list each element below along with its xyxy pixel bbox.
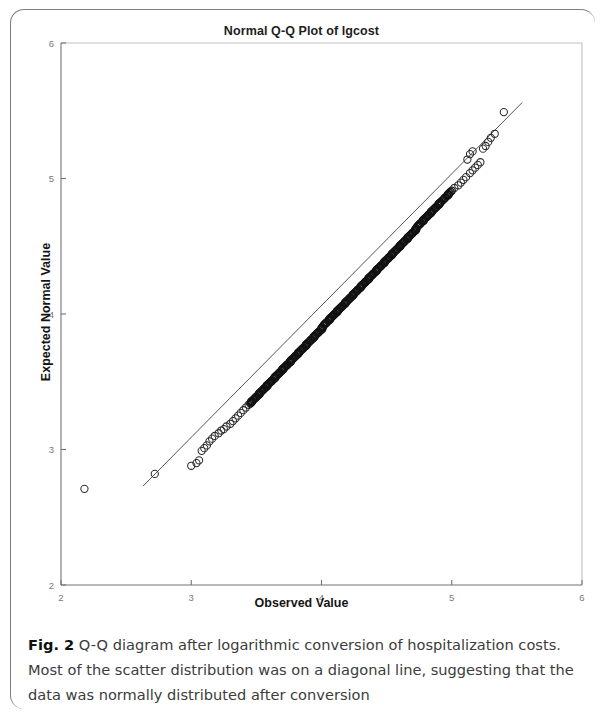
qq-plot-svg: 2345623456 <box>0 0 603 620</box>
svg-text:2: 2 <box>49 580 54 591</box>
scatter-points <box>81 109 508 493</box>
svg-text:5: 5 <box>49 173 54 184</box>
tick-labels: 2345623456 <box>49 38 585 604</box>
y-axis-title: Expected Normal Value <box>39 202 53 422</box>
reference-line <box>143 103 522 486</box>
x-axis-title: Observed Value <box>0 596 603 610</box>
svg-text:6: 6 <box>49 38 54 49</box>
figure-label: Fig. 2 <box>28 636 74 653</box>
svg-text:3: 3 <box>49 444 54 455</box>
figure-caption: Fig. 2 Q-Q diagram after logarithmic con… <box>28 632 588 707</box>
axes-group <box>61 43 582 585</box>
qq-plot-region: Normal Q-Q Plot of lgcost 2345623456 Obs… <box>0 0 603 620</box>
figure-caption-text: Q-Q diagram after logarithmic conversion… <box>28 636 574 703</box>
